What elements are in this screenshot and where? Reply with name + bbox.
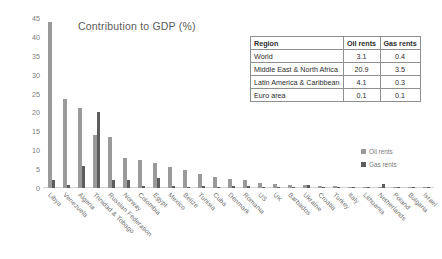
x-label-cell: UK <box>269 190 284 258</box>
bar-group <box>44 18 59 188</box>
legend-item[interactable]: Gas rents <box>361 161 397 168</box>
bar-group <box>74 18 89 188</box>
bar-gas <box>307 185 311 188</box>
x-label-cell: US <box>254 190 269 258</box>
bar-gas <box>337 187 341 188</box>
bar-oil <box>138 160 142 188</box>
bar-group <box>224 18 239 188</box>
chart-legend: Oil rentsGas rents <box>361 148 397 174</box>
y-axis: 051015202530354045 <box>24 18 42 188</box>
y-axis-tick: 40 <box>32 32 40 41</box>
bar-gas <box>367 187 371 188</box>
bar-gas <box>277 187 281 188</box>
x-label-cell: Colombia <box>134 190 149 258</box>
table-cell-region: Euro area <box>251 89 344 102</box>
bar-oil <box>48 22 52 188</box>
bar-gas <box>322 187 326 188</box>
bar-gas <box>112 180 116 188</box>
bar-group <box>149 18 164 188</box>
bar-oil <box>213 177 217 188</box>
bar-group <box>419 18 434 188</box>
bar-group <box>209 18 224 188</box>
x-label-cell: Israel <box>419 190 434 258</box>
x-axis-tick-label: Israel <box>422 191 439 208</box>
table-cell-region: World <box>251 50 344 63</box>
table-cell-oil-rents: 3.1 <box>343 50 380 63</box>
table-row: World3.10.4 <box>251 50 421 63</box>
bar-gas <box>412 187 416 188</box>
table-cell-oil-rents: 0.1 <box>343 89 380 102</box>
table-header-region: Region <box>251 37 344 50</box>
bar-gas <box>82 166 86 188</box>
x-label-cell: Tunisia <box>194 190 209 258</box>
bar-gas <box>52 180 56 188</box>
x-label-cell: Barbados <box>284 190 299 258</box>
bar-gas <box>247 186 251 188</box>
x-label-cell: Egypt <box>149 190 164 258</box>
x-label-cell: Ukraine <box>299 190 314 258</box>
x-label-cell: Mexico <box>164 190 179 258</box>
bar-gas <box>232 186 236 188</box>
bar-gas <box>427 187 431 188</box>
table-cell-oil-rents: 20.9 <box>343 63 380 76</box>
table-body: World3.10.4Middle East & North Africa20.… <box>251 50 421 102</box>
table-header-row: Region Oil rents Gas rents <box>251 37 421 50</box>
legend-swatch-icon <box>361 149 366 154</box>
bar-gas <box>142 186 146 188</box>
bar-group <box>134 18 149 188</box>
bar-group <box>194 18 209 188</box>
bar-group <box>104 18 119 188</box>
x-label-cell: Netherlands <box>374 190 389 258</box>
legend-swatch-icon <box>361 162 366 167</box>
y-axis-tick: 0 <box>36 184 40 193</box>
table-cell-region: Middle East & North Africa <box>251 63 344 76</box>
table-header-oil-rents: Oil rents <box>343 37 380 50</box>
y-axis-tick: 5 <box>36 165 40 174</box>
x-label-cell: Romania <box>239 190 254 258</box>
x-label-cell: Italy <box>344 190 359 258</box>
x-axis-tick-label: US <box>257 191 269 203</box>
table-cell-gas-rents: 3.5 <box>380 63 420 76</box>
legend-item[interactable]: Oil rents <box>361 148 397 155</box>
legend-label: Oil rents <box>369 148 393 155</box>
x-axis-labels: LibyaVenezuelaAlgeriaTrinidad & TobagoRu… <box>44 190 434 258</box>
bar-gas <box>382 184 386 188</box>
x-label-cell: Norway <box>119 190 134 258</box>
y-axis-tick: 15 <box>32 127 40 136</box>
bar-oil <box>168 167 172 188</box>
x-label-cell: Croatia <box>314 190 329 258</box>
bar-oil <box>183 170 187 188</box>
y-axis-tick: 30 <box>32 70 40 79</box>
bar-gas <box>67 185 71 188</box>
y-axis-tick: 25 <box>32 89 40 98</box>
y-axis-tick: 35 <box>32 51 40 60</box>
x-axis-tick-label: UK <box>272 191 284 203</box>
x-label-cell: Bulgaria <box>404 190 419 258</box>
legend-label: Gas rents <box>369 161 397 168</box>
bar-gas <box>397 187 401 188</box>
y-axis-tick: 45 <box>32 14 40 23</box>
table-cell-gas-rents: 0.4 <box>380 50 420 63</box>
x-label-cell: Cuba <box>209 190 224 258</box>
x-label-cell: Trinidad & Tobago <box>89 190 104 258</box>
table-row: Middle East & North Africa20.93.5 <box>251 63 421 76</box>
bar-group <box>179 18 194 188</box>
x-label-cell: Lithuania <box>359 190 374 258</box>
table-cell-gas-rents: 0.1 <box>380 89 420 102</box>
x-label-cell: Turkey <box>329 190 344 258</box>
bar-gas <box>202 186 206 188</box>
bar-group <box>59 18 74 188</box>
bar-gas <box>172 186 176 188</box>
x-label-cell: Venezuela <box>59 190 74 258</box>
bar-group <box>164 18 179 188</box>
bar-gas <box>217 187 221 188</box>
bar-gas <box>292 187 296 188</box>
table-row: Euro area0.10.1 <box>251 89 421 102</box>
regional-rents-table: Region Oil rents Gas rents World3.10.4Mi… <box>250 36 421 102</box>
table-cell-region: Latin America & Caribbean <box>251 76 344 89</box>
y-axis-tick: 20 <box>32 108 40 117</box>
x-label-cell: Denmark <box>224 190 239 258</box>
x-label-cell: Poland <box>389 190 404 258</box>
table-cell-gas-rents: 0.3 <box>380 76 420 89</box>
table-cell-oil-rents: 4.1 <box>343 76 380 89</box>
